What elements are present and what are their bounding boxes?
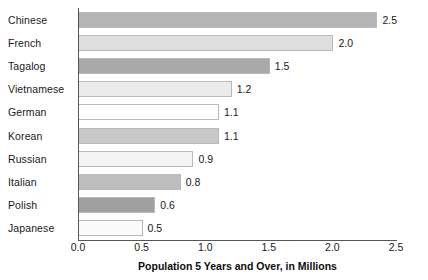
x-axis-title: Population 5 Years and Over, in Millions bbox=[78, 260, 397, 272]
bar-value-label: 2.5 bbox=[382, 14, 397, 26]
category-label: Japanese bbox=[0, 217, 78, 240]
bar-value-label: 1.1 bbox=[224, 106, 239, 118]
category-label: Vietnamese bbox=[0, 78, 78, 101]
x-tick-label: 2.0 bbox=[325, 241, 340, 253]
x-tick-label: 1.5 bbox=[261, 241, 276, 253]
bar bbox=[79, 58, 270, 74]
bar-row: 2.0 bbox=[79, 31, 397, 54]
bar bbox=[79, 174, 181, 190]
category-label: Russian bbox=[0, 147, 78, 170]
bar-value-label: 1.1 bbox=[224, 130, 239, 142]
x-tick-label: 0.0 bbox=[71, 241, 86, 253]
bar-value-label: 0.8 bbox=[186, 176, 201, 188]
bar-row: 0.8 bbox=[79, 170, 397, 193]
category-label: Italian bbox=[0, 170, 78, 193]
bar-value-label: 0.5 bbox=[148, 222, 163, 234]
x-tick-label: 0.5 bbox=[134, 241, 149, 253]
category-label: Chinese bbox=[0, 8, 78, 31]
bar-row: 0.9 bbox=[79, 147, 397, 170]
bar-row: 1.1 bbox=[79, 101, 397, 124]
bar bbox=[79, 151, 193, 167]
bar bbox=[79, 220, 143, 236]
bar bbox=[79, 197, 155, 213]
bar bbox=[79, 12, 377, 28]
category-label: Tagalog bbox=[0, 54, 78, 77]
bar-chart: ChineseFrenchTagalogVietnameseGermanKore… bbox=[0, 0, 428, 280]
bar-value-label: 1.2 bbox=[237, 83, 252, 95]
bar-value-label: 0.9 bbox=[198, 153, 213, 165]
category-label: Polish bbox=[0, 194, 78, 217]
bar bbox=[79, 35, 333, 51]
category-label: German bbox=[0, 101, 78, 124]
bar-row: 1.1 bbox=[79, 124, 397, 147]
category-label: Korean bbox=[0, 124, 78, 147]
bar bbox=[79, 128, 219, 144]
x-tick-label: 1.0 bbox=[198, 241, 213, 253]
bar-row: 1.5 bbox=[79, 54, 397, 77]
category-label: French bbox=[0, 31, 78, 54]
bar-row: 0.5 bbox=[79, 217, 397, 240]
plot-area: 2.52.01.51.21.11.10.90.80.60.5 bbox=[78, 8, 397, 240]
bar bbox=[79, 81, 232, 97]
bar-value-label: 2.0 bbox=[338, 37, 353, 49]
bar-value-label: 1.5 bbox=[275, 60, 290, 72]
bar-row: 2.5 bbox=[79, 8, 397, 31]
x-tick-label: 2.5 bbox=[389, 241, 404, 253]
bar-series: 2.52.01.51.21.11.10.90.80.60.5 bbox=[79, 8, 397, 240]
x-axis-ticks: 0.00.51.01.52.02.5 bbox=[78, 241, 397, 257]
bar-row: 0.6 bbox=[79, 194, 397, 217]
category-axis: ChineseFrenchTagalogVietnameseGermanKore… bbox=[0, 8, 78, 240]
bar bbox=[79, 104, 219, 120]
bar-row: 1.2 bbox=[79, 78, 397, 101]
bar-value-label: 0.6 bbox=[160, 199, 175, 211]
